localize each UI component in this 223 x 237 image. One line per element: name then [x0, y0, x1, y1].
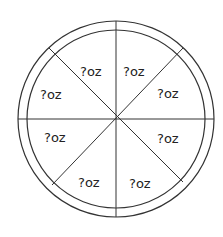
slice-label: ?oz: [157, 131, 179, 146]
slice-label: ?oz: [78, 175, 100, 190]
slice-label: ?oz: [123, 64, 145, 79]
slice-label: ?oz: [40, 87, 62, 102]
slice-label: ?oz: [80, 64, 102, 79]
slice-label: ?oz: [129, 176, 151, 191]
pizza-diagram: ?oz ?oz ?oz ?oz ?oz ?oz ?oz ?oz: [0, 0, 223, 237]
slice-label: ?oz: [157, 86, 179, 101]
cut-line-diagonal-2: [52, 48, 183, 185]
slice-label: ?oz: [44, 130, 66, 145]
